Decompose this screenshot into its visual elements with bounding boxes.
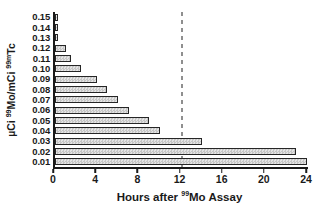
title-text: Mo Assay	[189, 191, 242, 203]
bar-0.13	[55, 34, 58, 41]
x-tick-label-8: 8	[134, 174, 140, 185]
bar-row-0.10	[55, 64, 308, 74]
mo99-breakthrough-chart: µCi 99Mo/mCi 99mTc 0.150.140.130.120.110…	[0, 0, 321, 215]
x-axis-title: Hours after 99Mo Assay	[53, 192, 306, 204]
bar-0.01	[55, 158, 307, 165]
bar-0.07	[55, 96, 118, 103]
x-tick-label-12: 12	[174, 174, 186, 185]
bar-row-0.06	[55, 105, 308, 115]
bar-0.14	[55, 24, 58, 31]
y-tick-label-0.06: 0.06	[32, 105, 50, 115]
bar-row-0.05	[55, 115, 308, 125]
y-axis-tick-labels: 0.150.140.130.120.110.100.090.080.070.06…	[0, 12, 51, 167]
y-tick-label-0.12: 0.12	[32, 43, 50, 53]
bar-row-0.09	[55, 74, 308, 84]
x-tick-label-4: 4	[92, 174, 98, 185]
y-tick-label-0.09: 0.09	[32, 74, 50, 84]
bar-row-0.04	[55, 126, 308, 136]
y-tick-label-0.13: 0.13	[32, 33, 50, 43]
bar-0.05	[55, 117, 149, 124]
bar-row-0.11	[55, 53, 308, 63]
y-tick-label-0.01: 0.01	[32, 157, 50, 167]
y-tick-label-0.11: 0.11	[33, 54, 50, 64]
isotope-superscript: 99	[181, 190, 189, 197]
title-text: Hours after	[117, 191, 182, 203]
y-tick-label-0.14: 0.14	[32, 23, 50, 33]
y-tick-label-0.15: 0.15	[32, 12, 50, 22]
bar-row-0.07	[55, 95, 308, 105]
bar-0.09	[55, 76, 97, 83]
bar-0.03	[55, 138, 202, 145]
bar-row-0.02	[55, 146, 308, 156]
bar-0.15	[55, 14, 58, 21]
x-tick-label-24: 24	[300, 174, 312, 185]
y-tick-label-0.02: 0.02	[32, 147, 50, 157]
bar-row-0.03	[55, 136, 308, 146]
bar-0.02	[55, 148, 296, 155]
bar-0.12	[55, 45, 66, 52]
y-tick-label-0.03: 0.03	[32, 136, 50, 146]
bar-row-0.13	[55, 33, 308, 43]
bar-row-0.01	[55, 157, 308, 167]
plot-area	[53, 12, 308, 169]
x-axis: 04812162024	[53, 169, 306, 191]
bar-0.08	[55, 86, 107, 93]
bar-row-0.15	[55, 12, 308, 22]
bar-row-0.14	[55, 22, 308, 32]
x-tick-label-20: 20	[258, 174, 270, 185]
y-tick-label-0.04: 0.04	[32, 126, 50, 136]
x-tick-label-0: 0	[50, 174, 56, 185]
y-tick-label-0.08: 0.08	[32, 85, 50, 95]
y-tick-label-0.10: 0.10	[32, 64, 50, 74]
bar-row-0.12	[55, 43, 308, 53]
bar-0.10	[55, 65, 81, 72]
bar-0.06	[55, 107, 129, 114]
y-tick-label-0.07: 0.07	[32, 95, 50, 105]
y-tick-label-0.05: 0.05	[32, 116, 50, 126]
bar-0.11	[55, 55, 71, 62]
bar-0.04	[55, 127, 160, 134]
x-tick-label-16: 16	[216, 174, 228, 185]
bar-row-0.08	[55, 84, 308, 94]
